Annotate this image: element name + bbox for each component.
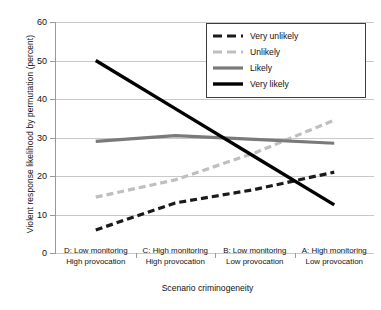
legend-label: Very likely	[250, 79, 289, 89]
y-tick-label: 60	[37, 17, 47, 27]
legend-label: Likely	[250, 63, 272, 73]
legend-swatch-icon	[213, 47, 243, 57]
legend-item[interactable]: Likely	[213, 60, 359, 76]
y-tick-label: 20	[37, 171, 47, 181]
x-category-label-line: A: High monitoring	[286, 246, 381, 257]
legend-label: Unlikely	[250, 47, 280, 57]
x-category-label-line: Low provocation	[286, 257, 381, 268]
x-axis-title-wrap: Scenario criminogeneity	[0, 283, 381, 293]
y-tick-label: 40	[37, 94, 47, 104]
x-axis-title: Scenario criminogeneity	[128, 283, 254, 293]
y-tick-label: 10	[37, 210, 47, 220]
legend-item[interactable]: Very likely	[213, 76, 359, 92]
legend-item[interactable]: Unlikely	[213, 44, 359, 60]
legend-swatch-icon	[213, 63, 243, 73]
y-axis-title: Violent response likelihood by permutati…	[25, 18, 35, 250]
y-tick-label: 50	[37, 56, 47, 66]
chart-legend: Very unlikelyUnlikelyLikelyVery likely	[206, 23, 366, 98]
legend-item[interactable]: Very unlikely	[213, 28, 359, 44]
legend-swatch-icon	[213, 31, 243, 41]
y-tick-label: 30	[37, 133, 47, 143]
chart-container: Violent response likelihood by permutati…	[0, 0, 381, 310]
legend-label: Very unlikely	[250, 31, 298, 41]
legend-swatch-icon	[213, 79, 243, 89]
series-line-likely	[96, 136, 335, 144]
y-tick-label: 0	[42, 248, 47, 258]
series-line-very-unlikely	[96, 172, 335, 230]
x-category-label: A: High monitoringLow provocation	[286, 246, 381, 267]
